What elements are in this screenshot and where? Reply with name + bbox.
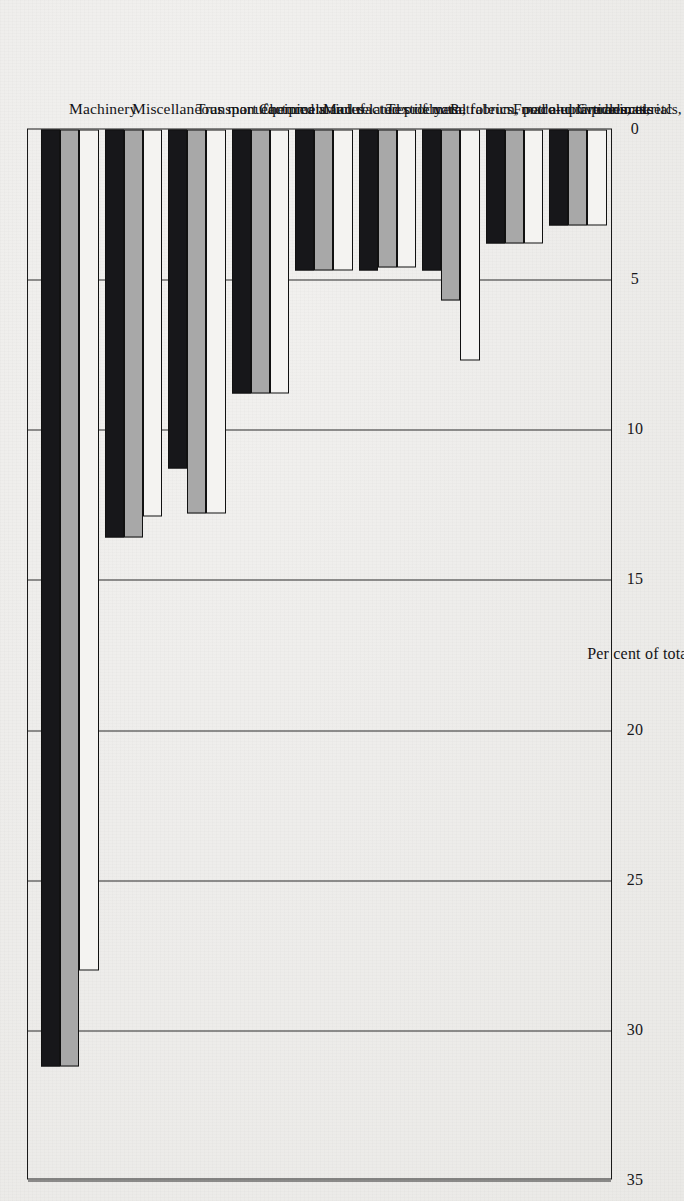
bar [232,129,251,393]
bar [187,129,206,513]
category-label: Machinery [69,99,138,117]
bar [505,129,524,243]
bar [270,129,289,393]
bar [359,129,378,270]
bar [206,129,225,513]
category-label: Crude materials, inedible, except fuels [577,99,684,117]
bar [441,129,460,300]
value-tick-15: 15 [627,569,644,587]
bar [460,129,479,360]
value-tick-10: 10 [627,419,644,437]
gridline-35 [28,1180,611,1181]
bar [60,129,79,1066]
page-background: 05101520253035 MachineryMiscellaneous ma… [0,0,684,1201]
bar [397,129,416,267]
bar [486,129,505,243]
bar [314,129,333,270]
value-tick-0: 0 [631,119,639,137]
value-axis-title: Per cent of total imports [587,645,684,663]
bar [124,129,143,537]
value-tick-5: 5 [631,269,639,287]
bar [79,129,98,970]
bar [422,129,441,270]
bar [295,129,314,270]
chart-stage: 05101520253035 MachineryMiscellaneous ma… [0,0,684,1201]
bar [168,129,187,468]
value-tick-25: 25 [627,870,644,888]
bar-series-container [28,129,611,1178]
bar [41,129,60,1066]
bar [587,129,606,225]
bar [143,129,162,516]
bar [251,129,270,393]
plot-area [27,128,612,1179]
value-tick-35: 35 [627,1170,644,1188]
value-tick-20: 20 [627,720,644,738]
bar [524,129,543,243]
bar [333,129,352,270]
bar [568,129,587,225]
bar [549,129,568,225]
bar [378,129,397,267]
value-tick-30: 30 [627,1020,644,1038]
bar [105,129,124,537]
